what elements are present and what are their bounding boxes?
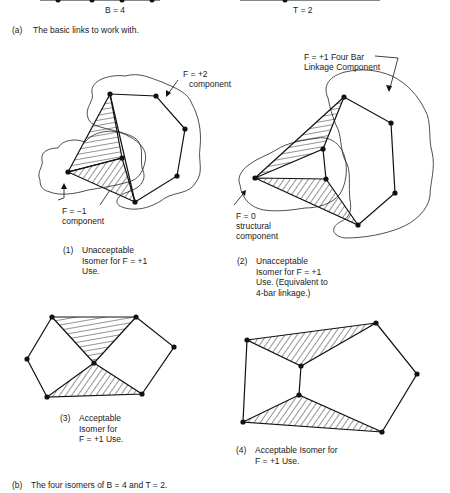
arrow-f-plus-2 bbox=[168, 80, 178, 94]
isomer-4-caption: (4) Acceptable Isomer for F = +1 Use. bbox=[236, 445, 416, 475]
t-count-label: T = 2 bbox=[293, 5, 312, 15]
isomer-1-caption: (1) Unacceptable Isomer for F = +1 Use. bbox=[63, 245, 203, 285]
ternary-link-upper bbox=[255, 97, 344, 178]
section-b-text: The four isomers of B = 4 and T = 2. bbox=[31, 480, 167, 490]
isomer-3-caption-text: Acceptable Isomer for F = +1 Use. bbox=[79, 413, 123, 445]
annotation-four-bar: F = +1 Four Bar Linkage Component bbox=[304, 52, 380, 72]
isomer-3-caption: (3) Acceptable Isomer for F = +1 Use. bbox=[60, 413, 180, 453]
ternary-link-lower bbox=[243, 395, 382, 432]
ternary-link-lower bbox=[47, 363, 142, 397]
ternary-link-upper bbox=[247, 323, 376, 366]
annotation-f-plus-2: F = +2 component bbox=[183, 69, 231, 89]
annotation-f-zero: F = 0 structural component bbox=[236, 211, 278, 241]
isomer-4-diagram bbox=[240, 320, 419, 434]
top-strip-remnants bbox=[40, 0, 380, 3]
isomer-1-diagram bbox=[39, 75, 201, 209]
b-count-label: B = 4 bbox=[105, 5, 125, 15]
isomer-3-diagram bbox=[24, 314, 176, 399]
annotation-f-minus-1: F = −1 component bbox=[62, 206, 104, 226]
isomer-2-caption-text: Unacceptable Isomer for F = +1 Use. (Equ… bbox=[256, 256, 328, 298]
section-b-label: (b) bbox=[12, 480, 22, 490]
arrow-f-zero bbox=[234, 193, 244, 205]
section-a-label: (a) bbox=[12, 25, 22, 35]
isomer-3-number: (3) bbox=[60, 413, 70, 424]
isomer-2-caption: (2) Unacceptable Isomer for F = +1 Use. … bbox=[237, 256, 417, 306]
isomer-1-caption-text: Unacceptable Isomer for F = +1 Use. bbox=[82, 245, 147, 277]
ternary-link-upper bbox=[52, 317, 136, 363]
isomer-4-number: (4) bbox=[236, 445, 246, 456]
isomer-2-number: (2) bbox=[237, 256, 247, 267]
section-a-text: The basic links to work with. bbox=[33, 25, 139, 35]
isomer-4-caption-text: Acceptable Isomer for F = +1 Use. bbox=[255, 445, 338, 466]
isomer-1-number: (1) bbox=[63, 245, 73, 256]
